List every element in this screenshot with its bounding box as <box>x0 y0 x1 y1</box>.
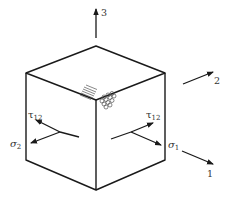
tau12-right-label: τ12 <box>146 109 160 122</box>
right-face-stresses: τ12 σ1 <box>111 109 179 152</box>
axis-2-arrow-icon <box>183 72 213 84</box>
stress-left-stem <box>60 132 79 137</box>
composite-cube-diagram: 3 2 1 τ12 σ2 τ12 σ1 <box>0 0 234 199</box>
cube-left-face <box>26 73 96 190</box>
sigma2-label: σ2 <box>10 138 21 151</box>
axis-2: 2 <box>183 72 220 86</box>
sigma2-arrow-icon <box>31 132 60 143</box>
tau12-right-arrow-icon <box>131 123 153 132</box>
fiber-cross-section-icon <box>100 92 116 110</box>
left-face-stresses: τ12 σ2 <box>10 109 79 151</box>
tau12-left-label: τ12 <box>28 109 42 122</box>
axis-1-arrow-icon <box>182 151 213 164</box>
axis-3-label: 3 <box>101 7 107 18</box>
sigma1-label: σ1 <box>168 139 179 152</box>
sigma1-arrow-icon <box>131 132 161 145</box>
axis-2-label: 2 <box>214 75 220 86</box>
stress-right-stem <box>111 132 131 139</box>
axis-3: 3 <box>96 7 107 38</box>
axis-1-label: 1 <box>207 168 213 179</box>
cube <box>26 46 165 190</box>
axis-1: 1 <box>182 151 213 179</box>
